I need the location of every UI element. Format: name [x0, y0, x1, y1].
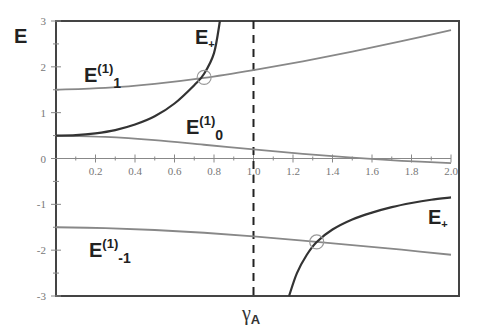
y-tick-label: -1	[37, 198, 46, 210]
x-axis-label: γA	[241, 302, 261, 327]
x-tick-label: 1.6	[365, 165, 379, 177]
label-e-plus-lower: E+	[428, 206, 448, 230]
label-e1-0: E(1)0	[186, 113, 223, 143]
x-tick-label: 1.2	[286, 165, 300, 177]
label-e-plus-upper: E+	[195, 26, 215, 50]
y-tick-label: 1	[41, 107, 47, 119]
y-tick-label: -2	[37, 244, 46, 256]
x-tick-label: 1.4	[326, 165, 340, 177]
x-tick-label: 1.8	[405, 165, 419, 177]
x-tick-label: 2.0	[444, 165, 458, 177]
y-tick-label: 3	[41, 15, 47, 27]
x-tick-label: 0.8	[207, 165, 221, 177]
x-tick-label: 0.4	[128, 165, 142, 177]
label-e1-1: E(1)1	[84, 61, 121, 91]
y-tick-label: -3	[37, 290, 47, 302]
label-e1-minus1: E(1)-1	[89, 236, 131, 266]
y-axis-label: E	[14, 25, 27, 47]
x-tick-label: 0.2	[89, 165, 103, 177]
y-tick-label: 0	[41, 153, 47, 165]
x-tick-label: 0.6	[168, 165, 182, 177]
crossing-markers	[197, 70, 324, 249]
chart-canvas: 0.20.40.60.81.01.21.41.61.82.03210-1-2-3…	[0, 0, 483, 335]
y-tick-label: 2	[41, 61, 47, 73]
